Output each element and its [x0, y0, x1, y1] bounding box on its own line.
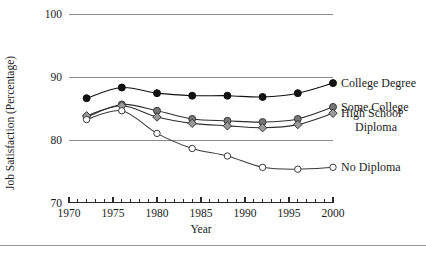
marker-no-diploma-1992[interactable]: [259, 164, 265, 170]
y-tick-label-90: 90: [51, 71, 63, 83]
marker-no-diploma-1972[interactable]: [83, 116, 89, 122]
marker-no-diploma-1996[interactable]: [295, 166, 301, 172]
x-tick-label-2000: 2000: [322, 207, 345, 219]
series-label-high-school-diploma: High School: [341, 106, 402, 120]
x-axis-title: Year: [190, 223, 211, 235]
marker-no-diploma-1980[interactable]: [154, 130, 160, 136]
marker-college-degree-1996[interactable]: [294, 90, 301, 97]
series-college-degree: [83, 80, 336, 102]
marker-no-diploma-1984[interactable]: [189, 145, 195, 151]
marker-college-degree-1984[interactable]: [189, 92, 196, 99]
marker-no-diploma-1988[interactable]: [224, 153, 230, 159]
x-tick-label-1975: 1975: [102, 207, 125, 219]
series-label-high-school-diploma-line2: Diploma: [355, 120, 398, 134]
marker-college-degree-1992[interactable]: [259, 93, 266, 100]
y-axis-group: 708090100 Job Satisfaction (Percentage): [4, 8, 333, 209]
x-tick-label-1980: 1980: [146, 207, 169, 219]
y-tick-label-80: 80: [51, 134, 63, 146]
marker-college-degree-1988[interactable]: [224, 92, 231, 99]
marker-high-school-diploma-2000[interactable]: [329, 109, 337, 117]
series-layer: [82, 80, 337, 173]
line-chart: 708090100 Job Satisfaction (Percentage) …: [0, 0, 426, 259]
marker-no-diploma-2000[interactable]: [330, 164, 336, 170]
marker-high-school-diploma-1996[interactable]: [294, 120, 302, 128]
x-axis-ticks: [69, 197, 333, 203]
marker-no-diploma-1976[interactable]: [119, 108, 125, 114]
series-label-college-degree: College Degree: [341, 76, 416, 90]
marker-college-degree-1980[interactable]: [154, 90, 161, 97]
marker-college-degree-1972[interactable]: [83, 95, 90, 102]
x-tick-labels: 1970197519801985199019952000: [58, 207, 345, 219]
y-axis-title: Job Satisfaction (Percentage): [4, 56, 17, 190]
marker-college-degree-1976[interactable]: [118, 84, 125, 91]
x-tick-label-1985: 1985: [190, 207, 213, 219]
figure-container: 708090100 Job Satisfaction (Percentage) …: [0, 0, 426, 259]
x-tick-label-1990: 1990: [234, 207, 257, 219]
x-tick-label-1995: 1995: [278, 207, 301, 219]
marker-high-school-diploma-1992[interactable]: [258, 124, 266, 132]
marker-college-degree-2000[interactable]: [330, 80, 337, 87]
y-tick-labels: 708090100: [45, 8, 63, 209]
x-axis-group: 1970197519801985199019952000 Year: [58, 197, 345, 236]
gridlines: [69, 15, 333, 141]
y-tick-label-100: 100: [45, 8, 63, 20]
series-inline-labels: College DegreeSome CollegeHigh SchoolDip…: [341, 76, 416, 174]
marker-high-school-diploma-1980[interactable]: [153, 113, 161, 121]
series-label-no-diploma: No Diploma: [341, 160, 401, 174]
x-tick-label-1970: 1970: [58, 207, 81, 219]
